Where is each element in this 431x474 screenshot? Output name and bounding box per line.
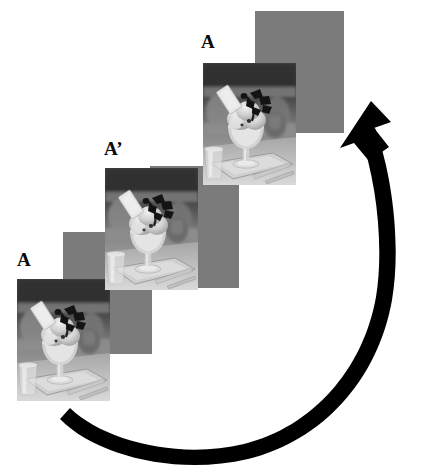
sundae-photo-art xyxy=(203,63,296,185)
card-photo-middle xyxy=(105,168,198,290)
card-photo-bottom xyxy=(17,279,110,401)
arrow-head xyxy=(340,101,391,161)
card-photo-top xyxy=(203,63,296,185)
sundae-photo-art xyxy=(17,279,110,401)
label-a-top: A xyxy=(201,32,215,51)
label-a-bottom: A xyxy=(17,250,31,269)
label-a-prime: A’ xyxy=(104,139,123,158)
sundae-photo-art xyxy=(105,168,198,290)
figure-canvas: AA’A xyxy=(0,0,431,474)
